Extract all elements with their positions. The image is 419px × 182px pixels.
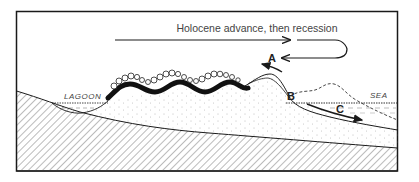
label-b: B [287,90,295,102]
label-sea: SEA [370,91,388,100]
coastal-barrier-diagram: Holocene advance, then recession A B C L… [0,0,419,182]
figure-title: Holocene advance, then recession [176,22,337,34]
recession-arrow [282,40,347,58]
label-lagoon: LAGOON [64,92,101,101]
label-a: A [268,52,276,64]
arrow-a [262,64,282,72]
label-c: C [336,103,344,115]
